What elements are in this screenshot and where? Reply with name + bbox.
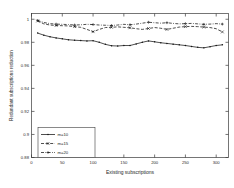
data-point-marker [166,21,169,24]
legend-label: m=10 [58,132,69,137]
x-tick-label: 250 [182,160,190,165]
data-point-marker [105,44,107,46]
data-point-marker [117,45,119,47]
data-point-marker [55,37,57,39]
y-tick-label: 0.98 [21,40,30,45]
data-point-marker [154,41,156,43]
data-point-marker [62,38,64,40]
data-point-marker [92,23,95,26]
series-m-20 [36,19,223,27]
data-point-marker [92,40,94,42]
data-point-marker [37,32,39,34]
x-tick-label: 50 [60,160,65,165]
data-point-marker [129,45,131,47]
data-point-marker [202,23,205,26]
data-point-marker [179,44,181,46]
data-point-marker [55,23,58,26]
x-tick-label: 200 [151,160,159,165]
data-point-marker [209,46,211,48]
data-point-marker [185,45,187,47]
data-point-marker [172,43,174,45]
data-point-marker [43,34,45,36]
data-point-marker [191,46,193,48]
series-m-15 [36,20,223,34]
data-point-marker [203,47,205,49]
data-point-marker [142,42,144,44]
figure-container: 0.880.90.920.940.960.981 050100150200250… [0,0,234,188]
data-point-marker [123,45,125,47]
data-point-marker [68,39,70,41]
data-point-marker [135,43,137,45]
legend-label: m=20 [58,150,69,155]
data-point-marker [197,47,199,49]
data-point-marker [129,23,132,26]
data-point-marker [147,21,150,24]
y-tick-label: 1 [27,17,30,22]
data-point-marker [222,44,224,46]
data-point-marker [98,42,100,44]
x-tick-label: 150 [120,160,128,165]
legend: m=10m=15m=20 [38,128,95,158]
data-point-marker [221,23,224,26]
data-point-marker [184,22,187,25]
data-point-marker [148,40,150,42]
data-point-marker [49,36,51,38]
y-tick-label: 0.88 [21,155,30,160]
data-point-marker [166,43,168,45]
legend-label: m=15 [58,141,69,146]
series-line [38,21,223,32]
series-m-10 [37,32,223,48]
data-point-marker [47,134,49,136]
data-point-marker [221,31,224,34]
data-point-marker [80,40,82,42]
y-tick-label: 0.92 [21,109,30,114]
data-point-marker [160,42,162,44]
x-tick-label: 300 [213,160,221,165]
y-tick-label: 0.9 [23,132,29,137]
data-point-marker [74,39,76,41]
x-axis-label: Existing subscriptions [106,169,155,175]
data-point-marker [111,45,113,47]
y-axis-label: Redundant subscriptions reduction [9,50,14,121]
x-tick-label: 0 [30,160,33,165]
series-group [36,19,223,49]
line-chart: 0.880.90.920.940.960.981 050100150200250… [0,0,234,188]
data-point-marker [215,45,217,47]
x-tick-label: 100 [90,160,98,165]
y-tick-label: 0.94 [21,86,30,91]
data-point-marker [86,40,88,42]
y-tick-label: 0.96 [21,63,30,68]
